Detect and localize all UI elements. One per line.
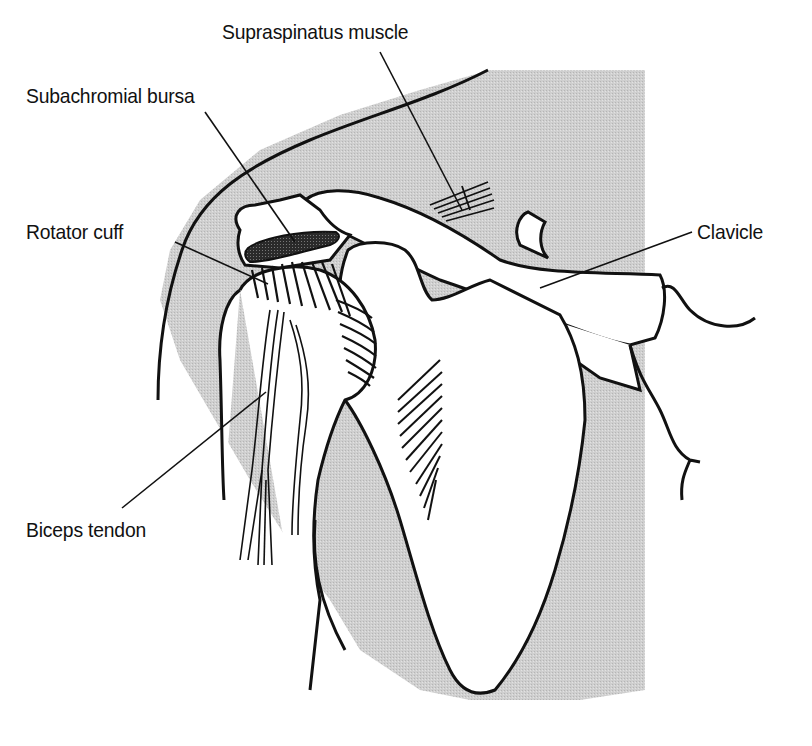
label-supraspinatus-muscle: Supraspinatus muscle [222, 20, 408, 44]
label-biceps-tendon: Biceps tendon [26, 518, 146, 542]
shoulder-diagram: Supraspinatus muscle Subachromial bursa … [0, 0, 812, 746]
label-rotator-cuff: Rotator cuff [26, 220, 123, 244]
label-subachromial-bursa: Subachromial bursa [26, 84, 195, 108]
label-clavicle: Clavicle [697, 220, 763, 244]
shoulder-illustration [0, 0, 812, 746]
vessel-line [662, 286, 755, 326]
